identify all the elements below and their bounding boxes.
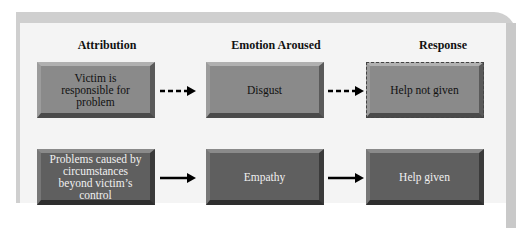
box-label: Help given [399,171,450,183]
box-label: Empathy [244,171,286,183]
box-label: Victim is responsible for problem [56,72,136,108]
box-label: Problems caused by circumstances beyond … [46,153,146,201]
figure-frame-edge [506,23,516,228]
box-label: Help not given [390,84,458,96]
box-empathy: Empathy [206,149,324,205]
header-attribution: Attribution [27,38,187,53]
header-response: Response [363,38,516,53]
box-disgust: Disgust [206,62,324,118]
figure-bottom [16,203,506,228]
header-emotion: Emotion Aroused [196,38,356,53]
box-victim-responsible: Victim is responsible for problem [37,62,155,118]
box-label: Disgust [247,84,282,96]
solid-arrow-1 [160,173,196,183]
dashed-arrow-1 [160,86,196,96]
dashed-arrow-2 [328,86,364,96]
solid-arrow-2 [328,173,364,183]
box-help-not-given: Help not given [366,62,484,118]
box-circumstances: Problems caused by circumstances beyond … [37,149,155,205]
box-help-given: Help given [366,149,484,205]
